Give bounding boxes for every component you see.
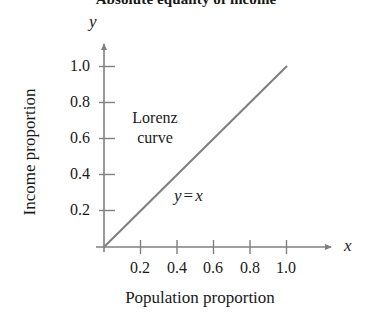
y-axis-variable-label: y <box>89 12 97 32</box>
x-tick-label-0.6: 0.6 <box>193 259 233 277</box>
lorenz-curve-figure: Absolute equality of income y x 1.0 0.8 … <box>0 0 372 318</box>
x-axis-title: Population proportion <box>75 288 325 308</box>
x-tick-label-0.8: 0.8 <box>230 259 270 277</box>
y-tick-label-0.4: 0.4 <box>46 165 90 183</box>
lorenz-curve-annotation-line-2: curve <box>112 128 198 148</box>
x-tick-label-1.0: 1.0 <box>266 259 306 277</box>
y-tick-label-1.0: 1.0 <box>46 57 90 75</box>
y-tick-label-0.6: 0.6 <box>46 129 90 147</box>
x-tick-label-0.2: 0.2 <box>120 259 160 277</box>
equality-line <box>104 66 287 247</box>
x-axis-variable-label: x <box>344 236 352 256</box>
y-tick-label-0.8: 0.8 <box>46 93 90 111</box>
line-equation-rhs: x <box>195 186 203 205</box>
lorenz-curve-annotation-line-1: Lorenz <box>112 108 198 128</box>
y-tick-label-0.2: 0.2 <box>46 201 90 219</box>
line-equation-operator: = <box>182 186 196 205</box>
x-tick-label-0.4: 0.4 <box>157 259 197 277</box>
line-equation-lhs: y <box>174 186 182 205</box>
y-axis-title: Income proportion <box>20 47 40 257</box>
lorenz-curve-annotation: Lorenz curve <box>112 108 198 148</box>
line-equation-annotation: y=x <box>174 186 203 206</box>
